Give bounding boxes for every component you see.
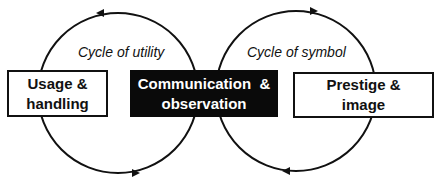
symbol-bottom-arrow-icon — [282, 167, 290, 175]
prestige-line2: image — [342, 95, 385, 115]
usage-handling-line2: handling — [26, 94, 89, 114]
usage-handling-node: Usage & handling — [7, 70, 108, 117]
cycle-of-symbol-label: Cycle of symbol — [247, 44, 346, 60]
communication-line2: observation — [161, 94, 246, 114]
prestige-line1: Prestige & — [326, 75, 400, 95]
communication-observation-node: Communication & observation — [130, 70, 278, 117]
diagram-canvas: Cycle of utility Cycle of symbol Usage &… — [0, 0, 440, 186]
cycle-of-utility-label: Cycle of utility — [78, 44, 164, 60]
prestige-image-node: Prestige & image — [293, 72, 434, 118]
communication-line1: Communication & — [138, 74, 271, 94]
usage-handling-line1: Usage & — [27, 74, 87, 94]
